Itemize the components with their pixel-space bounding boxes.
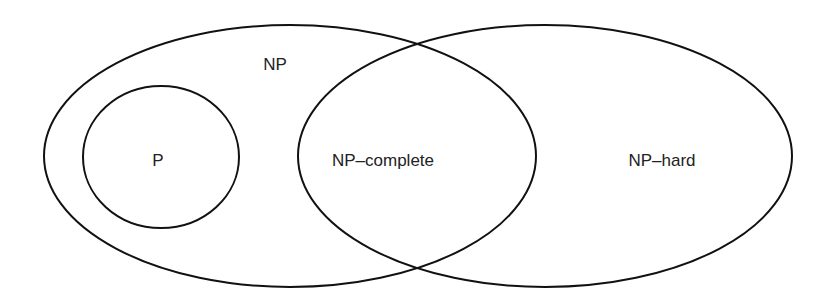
diagram-svg: NP P NP–complete NP–hard: [0, 0, 831, 300]
np-label: NP: [263, 55, 287, 74]
np-ellipse: [44, 25, 536, 287]
venn-diagram: NP P NP–complete NP–hard: [0, 0, 831, 300]
np-complete-label: NP–complete: [332, 151, 434, 170]
np-hard-label: NP–hard: [628, 151, 695, 170]
p-label: P: [152, 151, 163, 170]
